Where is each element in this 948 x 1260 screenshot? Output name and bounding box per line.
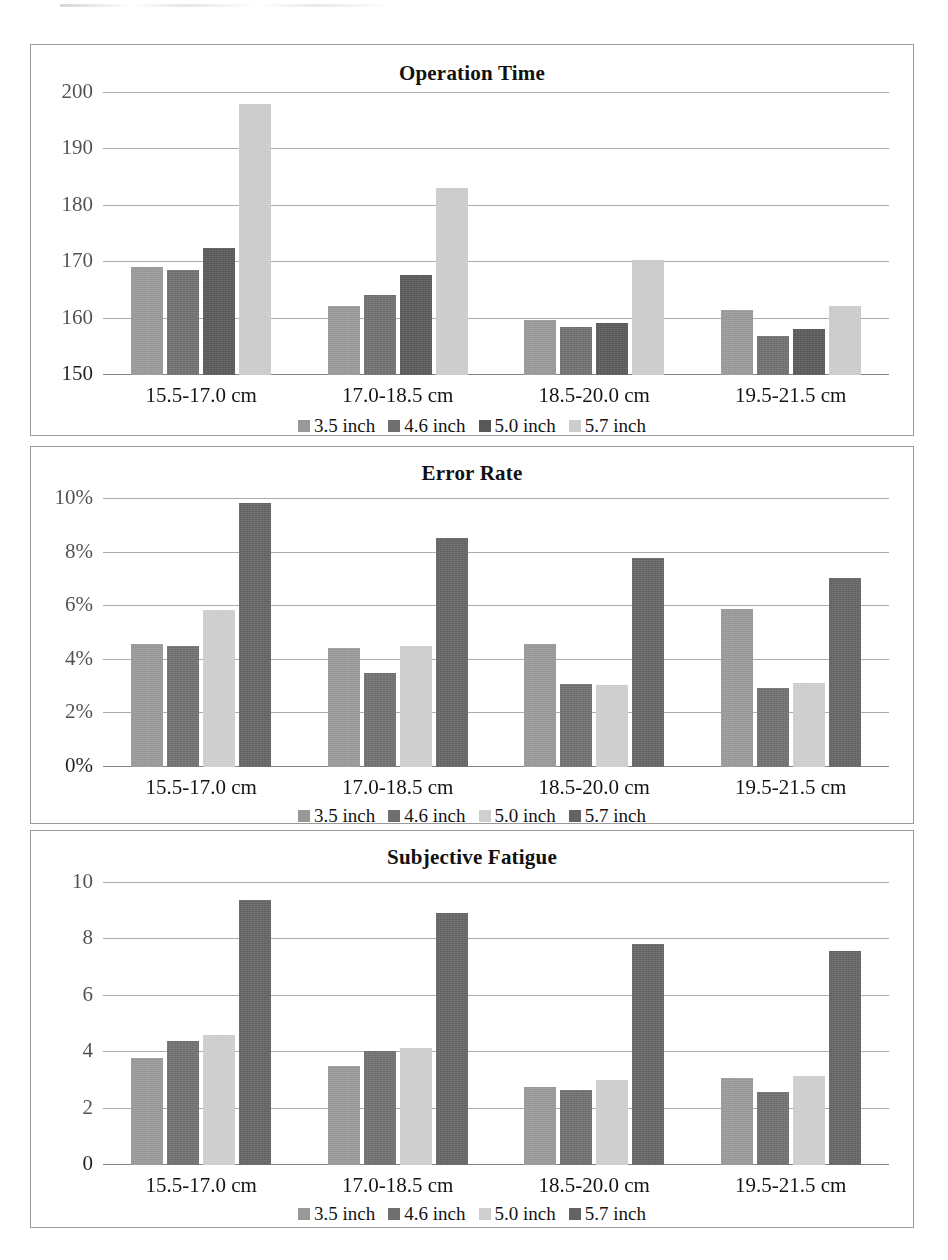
scan-artifact bbox=[60, 4, 390, 7]
y-axis-tick-label: 8 bbox=[83, 927, 94, 948]
legend-item[interactable]: 4.6 inch bbox=[388, 805, 465, 827]
bar bbox=[436, 93, 468, 375]
bar-texture bbox=[596, 685, 628, 767]
bar bbox=[829, 883, 861, 1165]
bar-texture bbox=[203, 1035, 235, 1165]
bar bbox=[560, 93, 592, 375]
y-axis-tick-label: 180 bbox=[62, 194, 94, 215]
x-axis-category-label: 15.5-17.0 cm bbox=[103, 775, 300, 800]
x-axis-category-label: 18.5-20.0 cm bbox=[496, 1173, 693, 1198]
legend-item[interactable]: 4.6 inch bbox=[388, 1203, 465, 1225]
bar-fill bbox=[524, 1087, 556, 1165]
legend-item[interactable]: 5.7 inch bbox=[569, 415, 646, 437]
chart-panel-operation-time: Operation Time 150160170180190200 15.5-1… bbox=[30, 44, 914, 436]
bar-fill bbox=[721, 310, 753, 375]
bar-texture bbox=[436, 188, 468, 375]
bar bbox=[721, 499, 753, 767]
bar-texture bbox=[721, 609, 753, 767]
bar-fill bbox=[400, 1048, 432, 1165]
legend-item[interactable]: 5.0 inch bbox=[479, 1203, 556, 1225]
x-axis-category-label: 18.5-20.0 cm bbox=[496, 775, 693, 800]
bar-texture bbox=[328, 648, 360, 767]
bar-fill bbox=[632, 558, 664, 767]
legend-swatch-icon bbox=[298, 810, 310, 822]
bar-fill bbox=[131, 267, 163, 375]
bar-texture bbox=[328, 1066, 360, 1165]
bar-fill bbox=[364, 1051, 396, 1165]
legend-item[interactable]: 5.7 inch bbox=[569, 805, 646, 827]
bar-fill bbox=[239, 503, 271, 767]
bar-texture bbox=[524, 320, 556, 375]
legend-swatch-icon bbox=[479, 420, 491, 432]
bar bbox=[239, 883, 271, 1165]
y-axis-tick-label: 200 bbox=[62, 81, 94, 102]
chart-title: Subjective Fatigue bbox=[31, 845, 913, 870]
chart-legend: 3.5 inch4.6 inch5.0 inch5.7 inch bbox=[31, 805, 913, 827]
bar bbox=[167, 883, 199, 1165]
bar-texture bbox=[757, 688, 789, 767]
bar bbox=[596, 499, 628, 767]
bar-fill bbox=[131, 644, 163, 767]
legend-swatch-icon bbox=[479, 810, 491, 822]
bar bbox=[239, 93, 271, 375]
legend-label: 4.6 inch bbox=[404, 1203, 465, 1225]
bar bbox=[400, 499, 432, 767]
bar-fill bbox=[757, 688, 789, 767]
bar-texture bbox=[239, 503, 271, 767]
bar bbox=[793, 499, 825, 767]
bar bbox=[364, 883, 396, 1165]
bar-fill bbox=[328, 1066, 360, 1165]
legend-item[interactable]: 3.5 inch bbox=[298, 415, 375, 437]
bar bbox=[524, 93, 556, 375]
legend-item[interactable]: 5.7 inch bbox=[569, 1203, 646, 1225]
bar-fill bbox=[400, 646, 432, 767]
plot-area: 0246810 bbox=[103, 883, 889, 1165]
bar-texture bbox=[239, 104, 271, 375]
y-axis-tick-label: 0 bbox=[83, 1153, 94, 1174]
bar-texture bbox=[131, 1058, 163, 1165]
bar-fill bbox=[829, 951, 861, 1165]
chart-legend: 3.5 inch4.6 inch5.0 inch5.7 inch bbox=[31, 415, 913, 437]
legend-label: 5.7 inch bbox=[585, 1203, 646, 1225]
bar-texture bbox=[131, 267, 163, 375]
bar-fill bbox=[596, 685, 628, 767]
legend-item[interactable]: 3.5 inch bbox=[298, 1203, 375, 1225]
legend-item[interactable]: 4.6 inch bbox=[388, 415, 465, 437]
bar bbox=[328, 883, 360, 1165]
bar-fill bbox=[524, 320, 556, 375]
legend-swatch-icon bbox=[298, 1208, 310, 1220]
bar-group bbox=[496, 93, 693, 375]
bar-texture bbox=[167, 1041, 199, 1165]
bar-fill bbox=[829, 306, 861, 375]
bar-fill bbox=[436, 538, 468, 767]
y-axis-tick-label: 150 bbox=[62, 363, 94, 384]
bar-group bbox=[103, 499, 300, 767]
bar-fill bbox=[721, 609, 753, 767]
x-axis-category-label: 15.5-17.0 cm bbox=[103, 1173, 300, 1198]
y-axis-tick-label: 10% bbox=[55, 487, 94, 508]
bar-fill bbox=[328, 648, 360, 767]
bar-fill bbox=[131, 1058, 163, 1165]
bar-texture bbox=[829, 578, 861, 767]
y-axis-tick-label: 160 bbox=[62, 307, 94, 328]
bar-texture bbox=[328, 306, 360, 375]
bar-fill bbox=[167, 1041, 199, 1165]
legend-item[interactable]: 5.0 inch bbox=[479, 415, 556, 437]
legend-item[interactable]: 3.5 inch bbox=[298, 805, 375, 827]
legend-swatch-icon bbox=[569, 1208, 581, 1220]
bar-fill bbox=[436, 188, 468, 375]
bar-fill bbox=[524, 644, 556, 767]
legend-label: 5.0 inch bbox=[495, 1203, 556, 1225]
bar bbox=[721, 883, 753, 1165]
legend-item[interactable]: 5.0 inch bbox=[479, 805, 556, 827]
bar-fill bbox=[757, 336, 789, 375]
legend-swatch-icon bbox=[388, 810, 400, 822]
legend-label: 3.5 inch bbox=[314, 415, 375, 437]
chart-legend: 3.5 inch4.6 inch5.0 inch5.7 inch bbox=[31, 1203, 913, 1225]
legend-label: 4.6 inch bbox=[404, 415, 465, 437]
bar bbox=[596, 883, 628, 1165]
bar bbox=[721, 93, 753, 375]
y-axis-tick-label: 6% bbox=[65, 594, 93, 615]
bar bbox=[131, 93, 163, 375]
bar-fill bbox=[632, 944, 664, 1165]
